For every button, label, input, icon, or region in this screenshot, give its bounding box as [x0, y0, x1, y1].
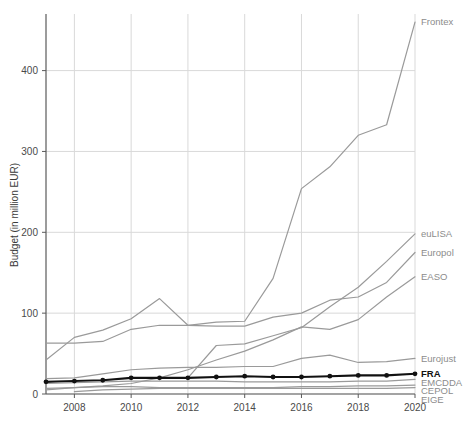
y-axis-title: Budget (in million EUR): [9, 163, 20, 267]
series-point-fra: [186, 375, 191, 380]
series-label-eige: EIGE: [421, 394, 444, 405]
x-tick-label: 2016: [290, 402, 313, 413]
y-tick-label: 100: [21, 308, 38, 319]
x-tick-label: 2018: [347, 402, 370, 413]
chart-background: [0, 0, 469, 423]
y-tick-label: 300: [21, 146, 38, 157]
series-point-fra: [72, 379, 77, 384]
series-point-fra: [384, 373, 389, 378]
series-label-easo: EASO: [421, 271, 447, 282]
x-tick-label: 2008: [63, 402, 86, 413]
series-label-europol: Europol: [421, 247, 454, 258]
series-point-fra: [242, 374, 247, 379]
series-point-fra: [100, 378, 105, 383]
series-point-fra: [356, 373, 361, 378]
series-point-fra: [413, 371, 418, 376]
series-label-frontex: Frontex: [421, 16, 453, 27]
series-point-fra: [44, 379, 49, 384]
series-point-fra: [299, 375, 304, 380]
series-point-fra: [271, 375, 276, 380]
x-tick-label: 2014: [234, 402, 257, 413]
series-label-eulisa: euLISA: [421, 228, 453, 239]
chart-canvas: 0100200300400 20082010201220142016201820…: [0, 0, 469, 423]
series-point-fra: [214, 375, 219, 380]
series-point-fra: [157, 375, 162, 380]
y-tick-label: 400: [21, 65, 38, 76]
x-tick-label: 2010: [120, 402, 143, 413]
budget-line-chart: 0100200300400 20082010201220142016201820…: [0, 0, 469, 423]
x-tick-label: 2012: [177, 402, 200, 413]
y-tick-label: 0: [32, 389, 38, 400]
series-label-eurojust: Eurojust: [421, 353, 456, 364]
y-tick-label: 200: [21, 227, 38, 238]
series-point-fra: [327, 374, 332, 379]
series-point-fra: [129, 375, 134, 380]
